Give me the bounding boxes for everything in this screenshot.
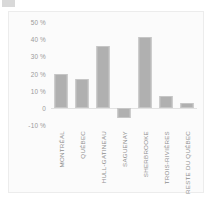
y-axis-tick-label: 50 % [31, 19, 46, 26]
x-axis-tick-label: RESTE DU QUÉBEC [183, 131, 190, 194]
x-axis-tick-label: QUÉBEC [79, 131, 86, 159]
bar[interactable] [117, 108, 130, 118]
bar[interactable] [138, 37, 151, 107]
y-axis-tick-label: 40 % [31, 36, 46, 43]
bar[interactable] [159, 96, 172, 108]
y-axis-tick-label: 30 % [31, 53, 46, 60]
x-axis-tick-label: HULL-GATINEAU [100, 131, 107, 183]
bar-slot: RESTE DU QUÉBEC [176, 22, 197, 125]
bar[interactable] [76, 79, 89, 108]
y-axis-tick-label: 20 % [31, 70, 46, 77]
bar[interactable] [97, 46, 110, 108]
bar-slot: HULL-GATINEAU [93, 22, 114, 125]
bar-slot: SHERBROOKE [134, 22, 155, 125]
bar-slot: MONTRÉAL [51, 22, 72, 125]
bar-slot: TROIS-RIVIÈRES [155, 22, 176, 125]
bar-slot: SAGUENAY [114, 22, 135, 125]
corner-artifact [2, 0, 15, 7]
bar-chart-figure: 50 %40 %30 %20 %10 %0-10 % MONTRÉALQUÉBE… [8, 11, 204, 193]
bar-series: MONTRÉALQUÉBECHULL-GATINEAUSAGUENAYSHERB… [51, 22, 197, 125]
y-axis-tick-label: -10 % [28, 122, 46, 129]
bar-slot: QUÉBEC [72, 22, 93, 125]
bar[interactable] [55, 74, 68, 108]
x-axis-tick-label: SHERBROOKE [141, 131, 148, 177]
x-axis-tick-label: SAGUENAY [120, 131, 127, 167]
bar[interactable] [180, 103, 193, 108]
plot-area: 50 %40 %30 %20 %10 %0-10 % MONTRÉALQUÉBE… [51, 22, 197, 125]
y-axis-tick-label: 10 % [31, 87, 46, 94]
y-axis-tick-label: 0 [42, 104, 46, 111]
x-axis-tick-label: TROIS-RIVIÈRES [162, 131, 169, 184]
x-axis-tick-label: MONTRÉAL [58, 131, 65, 167]
